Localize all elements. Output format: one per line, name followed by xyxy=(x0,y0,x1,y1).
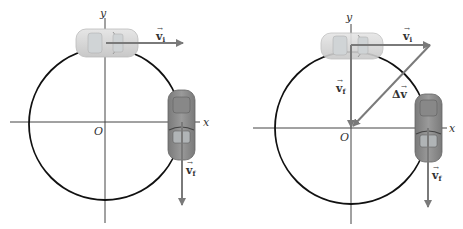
left-panel: vi → vf → y x O xyxy=(10,7,210,223)
left-origin-label: O xyxy=(94,125,103,138)
circular-motion-diagram: vi → vf → y x O vi → xyxy=(0,0,463,229)
vector-arrow-mark: → xyxy=(187,159,193,167)
vector-arrow-mark: → xyxy=(337,77,343,85)
vector-arrow-mark: → xyxy=(404,25,410,33)
vector-arrow-mark: → xyxy=(401,83,407,91)
vector-arrow-mark: → xyxy=(433,164,439,172)
left-y-axis-label: y xyxy=(99,7,107,20)
right-x-axis-label: x xyxy=(449,122,456,135)
vector-arrow-mark: → xyxy=(157,25,163,33)
right-origin-label: O xyxy=(340,131,349,144)
right-y-axis-label: y xyxy=(345,11,353,24)
right-panel: vi → vf → Δv → vf → y x O xyxy=(253,11,456,224)
left-x-axis-label: x xyxy=(203,116,210,129)
